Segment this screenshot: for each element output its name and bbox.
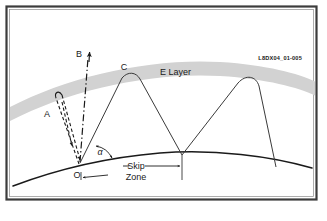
label-ray-a: A	[44, 109, 50, 119]
skywave-propagation-diagram: A B C E Layer O α Skip Zone L8DX04_01-00…	[0, 0, 327, 221]
figure-container: A B C E Layer O α Skip Zone L8DX04_01-00…	[0, 0, 327, 221]
label-ray-b: B	[76, 49, 82, 59]
label-zone: Zone	[126, 172, 147, 182]
label-angle-alpha: α	[97, 147, 103, 157]
ray-b-arrow	[89, 52, 90, 62]
figure-id-code: L8DX04_01-005	[258, 55, 302, 61]
label-origin: O	[73, 170, 80, 180]
label-skip: Skip	[127, 161, 145, 171]
label-apex-c: C	[121, 62, 128, 72]
label-e-layer: E Layer	[160, 67, 191, 77]
